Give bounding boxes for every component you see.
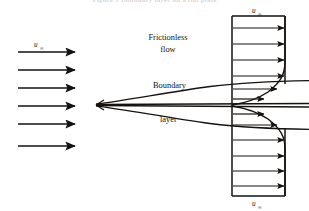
u-symbol-top: u (252, 7, 256, 15)
freestream-velocity-label: u ∞ (34, 41, 44, 51)
top-velocity-label: u ∞ (252, 7, 262, 17)
plate-upper-surface (96, 103, 309, 104)
flat-plate (96, 100, 309, 110)
u-subscript-top: ∞ (258, 12, 262, 17)
lower-boundary-layer-profile (233, 114, 277, 125)
boundary-label: Boundary (153, 81, 187, 90)
upper-freestream-profile (233, 28, 284, 76)
frictionless-flow-label-line1: Frictionless (148, 33, 187, 42)
figure-canvas: Figure 1 Boundary layer on a flat plate … (0, 0, 309, 211)
u-symbol: u (34, 41, 38, 49)
u-subscript: ∞ (40, 46, 44, 51)
boundary-layer-diagram: u ∞ Boundary layer Frictionless flow (0, 0, 309, 211)
u-subscript-bottom: ∞ (258, 205, 262, 210)
bottom-velocity-label: u ∞ (252, 200, 262, 210)
frictionless-flow-label-line2: flow (160, 45, 176, 54)
lower-profile-curve (232, 106, 285, 196)
layer-label: layer (160, 115, 177, 124)
lower-boundary-layer-edge (96, 106, 309, 130)
u-symbol-bottom: u (252, 200, 256, 208)
uniform-approach-flow-arrows (18, 52, 75, 146)
plate-lower-surface (96, 105, 309, 107)
lower-freestream-profile (233, 140, 284, 186)
